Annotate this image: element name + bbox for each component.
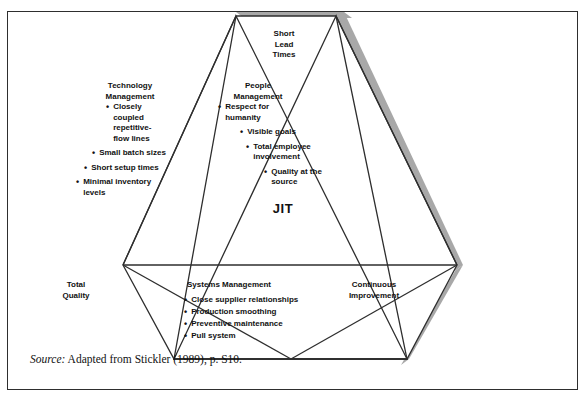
people-bullet-1-text: Respect for humanity — [225, 102, 310, 123]
systems-bullet-2: • Production smoothing — [184, 307, 344, 318]
technology-bullet-1-line-3: repetitive- — [113, 123, 151, 132]
people-bullet-4-line-2: source — [271, 177, 297, 186]
people-bullet-2-text: Visible goals — [247, 127, 340, 138]
bullet-dot-icon: • — [184, 295, 187, 306]
technology-bullet-1: • Closely coupled repetitive- flow lines — [106, 102, 176, 144]
people-bullet-1: • Respect for humanity — [218, 102, 310, 123]
bullet-dot-icon: • — [240, 127, 243, 138]
source-label: Source: — [30, 353, 65, 365]
section-technology-management: Technology Management • Closely coupled … — [84, 81, 212, 198]
bullet-dot-icon: • — [184, 319, 187, 330]
jit-center-label: JIT — [253, 204, 313, 215]
systems-bullet-1: • Close supplier relationships — [184, 295, 344, 306]
figure-frame: Short Lead Times Technology Management •… — [7, 11, 578, 390]
people-bullet-4-line-1: Quality at the — [271, 167, 322, 176]
systems-bullet-4-text: Pull system — [191, 331, 344, 342]
bullet-dot-icon: • — [184, 331, 187, 342]
systems-bullet-3-text: Preventive maintenance — [191, 319, 344, 330]
jit-hexagon-diagram: Short Lead Times Technology Management •… — [8, 12, 579, 391]
people-bullet-1-line-2: humanity — [225, 113, 261, 122]
systems-bullet-1-text: Close supplier relationships — [191, 295, 344, 306]
exhibit-caption-strip: EXHIBIT 10.1 THE INTERSECTING ELEMENTS O… — [0, 0, 585, 7]
bullet-dot-icon: • — [218, 102, 221, 113]
people-bullet-3: • Total employee involvement — [246, 142, 352, 163]
systems-management-heading: Systems Management — [154, 280, 304, 291]
technology-bullet-4-line-2: levels — [83, 188, 105, 197]
source-note: Source: Adapted from Stickler (1989), p.… — [30, 353, 242, 365]
short-lead-times-line-2: Lead — [254, 40, 314, 51]
systems-bullet-3: • Preventive maintenance — [184, 319, 344, 330]
technology-bullet-1-line-2: coupled — [113, 113, 144, 122]
bullet-dot-icon: • — [92, 148, 95, 159]
total-quality-line-2: Quality — [46, 291, 106, 302]
label-short-lead-times: Short Lead Times — [254, 29, 314, 61]
technology-management-heading-line-2: Management — [84, 92, 176, 103]
continuous-improvement-line-2: Improvement — [334, 291, 414, 302]
technology-bullet-3: • Short setup times — [84, 163, 204, 174]
people-management-heading-line-1: People — [212, 81, 304, 92]
technology-bullet-4: • Minimal inventory levels — [76, 177, 204, 198]
systems-bullet-4: • Pull system — [184, 331, 344, 342]
systems-bullet-2-text: Production smoothing — [191, 307, 344, 318]
bullet-dot-icon: • — [106, 102, 109, 113]
systems-management-bullet-list: • Close supplier relationships • Product… — [184, 295, 344, 342]
section-people-management: People Management • Respect for humanity… — [212, 81, 358, 188]
technology-management-heading-line-1: Technology — [84, 81, 176, 92]
technology-bullet-1-text: Closely coupled repetitive- flow lines — [113, 102, 176, 144]
people-bullet-3-line-2: involvement — [253, 152, 300, 161]
section-systems-management: Systems Management • Close supplier rela… — [154, 280, 344, 343]
technology-bullet-4-text: Minimal inventory levels — [83, 177, 204, 198]
bullet-dot-icon: • — [264, 167, 267, 178]
short-lead-times-line-1: Short — [254, 29, 314, 40]
people-bullet-4-text: Quality at the source — [271, 167, 358, 188]
source-text: Adapted from Stickler (1989), p. S10. — [65, 353, 242, 365]
bullet-dot-icon: • — [76, 177, 79, 188]
exhibit-caption-text: EXHIBIT 10.1 THE INTERSECTING ELEMENTS O… — [8, 0, 245, 2]
people-bullet-3-line-1: Total employee — [253, 142, 311, 151]
technology-bullet-3-text: Short setup times — [91, 163, 204, 174]
bullet-dot-icon: • — [84, 163, 87, 174]
people-bullet-4: • Quality at the source — [264, 167, 358, 188]
technology-bullet-1-line-1: Closely — [113, 102, 141, 111]
label-continuous-improvement: Continuous Improvement — [334, 280, 414, 301]
people-bullet-3-text: Total employee involvement — [253, 142, 352, 163]
technology-bullet-2-text: Small batch sizes — [99, 148, 206, 159]
technology-bullet-1-line-4: flow lines — [113, 134, 149, 143]
bullet-dot-icon: • — [184, 307, 187, 318]
technology-bullet-2: • Small batch sizes — [92, 148, 206, 159]
total-quality-line-1: Total — [46, 280, 106, 291]
short-lead-times-line-3: Times — [254, 50, 314, 61]
people-management-heading: People Management — [212, 81, 304, 102]
people-management-heading-line-2: Management — [212, 92, 304, 103]
people-bullet-1-line-1: Respect for — [225, 102, 269, 111]
label-total-quality: Total Quality — [46, 280, 106, 301]
bullet-dot-icon: • — [246, 142, 249, 153]
continuous-improvement-line-1: Continuous — [334, 280, 414, 291]
technology-bullet-4-line-1: Minimal inventory — [83, 177, 151, 186]
people-bullet-2: • Visible goals — [240, 127, 340, 138]
technology-management-heading: Technology Management — [84, 81, 176, 102]
